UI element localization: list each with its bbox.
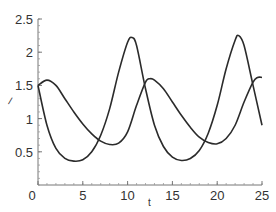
x-tick-label: 25 <box>255 188 269 203</box>
ticks: 05101520250.511.522.5 <box>15 12 269 203</box>
line-chart: 05101520250.511.522.5 t / <box>0 0 276 212</box>
series-curve-a <box>38 35 262 161</box>
y-tick-label: 1 <box>26 112 33 127</box>
y-tick-label: 1.5 <box>15 78 33 93</box>
y-tick-label: 2 <box>26 45 33 60</box>
x-tick-label: 0 <box>28 188 35 203</box>
x-tick-label: 20 <box>210 188 224 203</box>
x-tick-label: 10 <box>120 188 134 203</box>
x-axis-label: t <box>148 197 151 208</box>
plot-area: 05101520250.511.522.5 t / <box>0 0 276 212</box>
y-axis-label: / <box>7 95 13 106</box>
y-tick-label: 0.5 <box>15 145 33 160</box>
x-tick-label: 5 <box>79 188 86 203</box>
x-tick-label: 15 <box>165 188 179 203</box>
y-tick-label: 2.5 <box>15 12 33 27</box>
data-lines <box>38 35 262 161</box>
